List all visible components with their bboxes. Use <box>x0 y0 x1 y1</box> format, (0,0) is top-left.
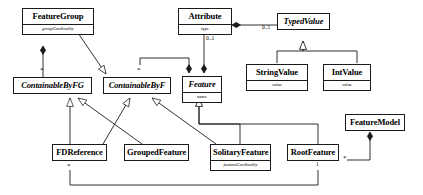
class-name-feature-model: FeatureModel <box>346 115 404 130</box>
uml-class-diagram: FeatureGroup groupCardinality Attribute … <box>0 0 423 195</box>
class-attribute-feature-cardinality: featureCardinality <box>211 161 270 171</box>
multiplicity-containable-by-fg: * <box>40 67 44 74</box>
class-box-containable-by-fg[interactable]: ContainableByFG <box>13 77 92 94</box>
class-box-int-value[interactable]: IntValue value <box>323 64 371 91</box>
multiplicity-containable-by-f: * <box>137 67 141 74</box>
multiplicity-root-feature-one: 1 <box>316 162 319 168</box>
class-box-fd-reference[interactable]: FDReference <box>52 144 107 161</box>
class-name-int-value: IntValue <box>324 65 370 80</box>
class-attribute-type: type <box>179 25 231 35</box>
class-box-feature[interactable]: Feature name <box>182 76 222 103</box>
class-box-feature-group[interactable]: FeatureGroup groupCardinality <box>22 8 94 35</box>
multiplicity-root-feature-star: * <box>343 155 347 162</box>
class-name-solitary-feature: SolitaryFeature <box>211 145 270 160</box>
class-attribute-name: name <box>183 93 221 103</box>
class-attribute-value-string: value <box>247 81 307 91</box>
class-name-feature: Feature <box>183 77 221 92</box>
class-name-fd-reference: FDReference <box>53 145 106 160</box>
edge-containablebyf-feature <box>140 58 189 73</box>
multiplicity-attribute-feature: 0..1 <box>206 36 214 42</box>
multiplicity-typedvalue-attribute: 0..1 <box>262 25 270 31</box>
edge-featuregroup-isa-containablebyf <box>78 33 106 74</box>
class-box-containable-by-f[interactable]: ContainableByF <box>103 77 171 94</box>
edge-fdreference-isa-containablebyf <box>103 98 130 144</box>
class-name-containable-by-fg: ContainableByFG <box>14 78 91 93</box>
class-box-grouped-feature[interactable]: GroupedFeature <box>124 144 189 161</box>
class-box-attribute[interactable]: Attribute type <box>178 8 232 35</box>
class-attribute-group-cardinality: groupCardinality <box>23 25 93 35</box>
class-box-typed-value[interactable]: TypedValue <box>277 13 330 30</box>
class-name-grouped-feature: GroupedFeature <box>125 145 188 160</box>
edge-intvalue-isa-typedvalue <box>303 41 357 63</box>
edge-featuremodel-rootfeature <box>347 132 370 160</box>
edge-solitaryfeature-isa-containablebyf <box>152 98 216 144</box>
class-box-string-value[interactable]: StringValue value <box>246 64 308 91</box>
class-box-root-feature[interactable]: RootFeature <box>287 144 339 161</box>
class-box-solitary-feature[interactable]: SolitaryFeature featureCardinality <box>210 144 271 171</box>
class-name-typed-value: TypedValue <box>278 14 329 29</box>
class-name-root-feature: RootFeature <box>288 145 338 160</box>
edge-groupedfeature-isa-containablebyfg <box>78 98 142 144</box>
multiplicity-fd-reference: * <box>67 163 71 170</box>
edge-solitaryfeature-isa-feature <box>199 98 240 144</box>
class-name-feature-group: FeatureGroup <box>23 9 93 24</box>
class-name-string-value: StringValue <box>247 65 307 80</box>
class-name-attribute: Attribute <box>179 9 231 24</box>
class-box-feature-model[interactable]: FeatureModel <box>345 114 405 131</box>
class-name-containable-by-f: ContainableByF <box>104 78 170 93</box>
edge-rootfeature-isa-feature <box>199 98 318 144</box>
class-attribute-value-int: value <box>324 81 370 91</box>
edge-rootfeature-fdreference <box>70 170 318 185</box>
edge-stringvalue-isa-typedvalue <box>277 41 303 63</box>
